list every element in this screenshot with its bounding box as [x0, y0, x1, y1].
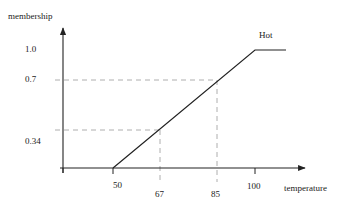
y-tick-label-0.34: 0.34 — [25, 137, 41, 146]
chart-canvas — [0, 0, 350, 208]
x-tick-label-100: 100 — [247, 182, 261, 191]
series-label-hot: Hot — [259, 31, 273, 40]
hot-membership-line — [113, 50, 286, 168]
y-tick-label-0.7: 0.7 — [25, 75, 36, 84]
projection-lines — [55, 80, 217, 182]
y-tick-label-1.0: 1.0 — [25, 45, 36, 54]
y-axis-label: membership — [8, 12, 53, 21]
x-tick-label-50: 50 — [113, 181, 122, 190]
x-tick-label-67: 67 — [155, 190, 164, 199]
x-tick-label-85: 85 — [211, 190, 220, 199]
x-axis-label: temperature — [284, 184, 327, 193]
